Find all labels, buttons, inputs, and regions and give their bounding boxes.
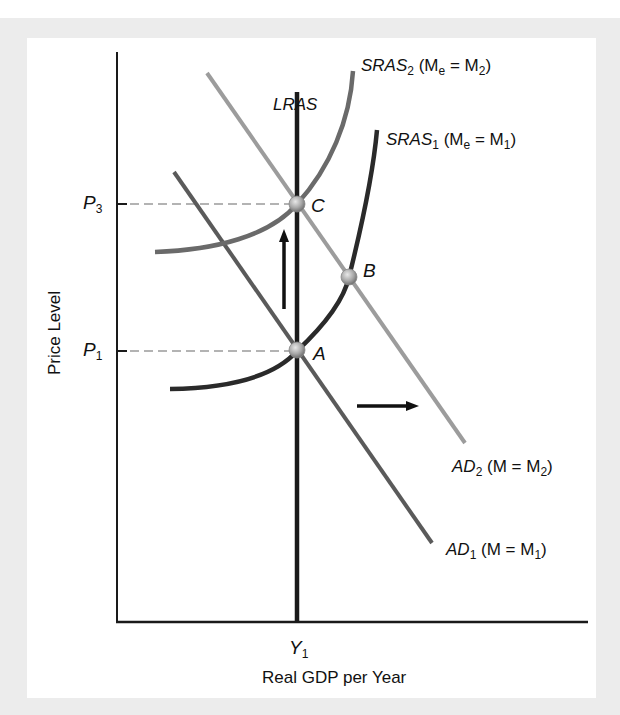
- sras2-curve: [155, 71, 353, 252]
- ad1-curve: [174, 172, 432, 543]
- point-c-label: C: [311, 196, 325, 215]
- sras2-label: SRAS2 (Me = M2): [361, 57, 491, 77]
- y1-tick-label: Y1: [289, 638, 308, 660]
- ad-shift-arrow: [357, 401, 419, 411]
- x-axis-title: Real GDP per Year: [262, 668, 406, 688]
- lras-label: LRAS: [273, 96, 317, 113]
- point-a-marker: [289, 342, 305, 358]
- sras1-label: SRAS1 (Me = M1): [386, 131, 516, 151]
- point-a-label: A: [313, 344, 326, 363]
- y-axis-title: Price Level: [45, 291, 65, 375]
- point-b-marker: [341, 269, 357, 285]
- ad1-label: AD1 (M = M1): [446, 541, 547, 561]
- ad2-label: AD2 (M = M2): [452, 458, 553, 478]
- ad2-curve: [207, 73, 465, 443]
- p1-tick-label: P1: [83, 340, 102, 362]
- point-c-marker: [289, 196, 305, 212]
- price-rise-arrow: [279, 229, 289, 309]
- point-b-label: B: [363, 261, 376, 280]
- p3-tick-label: P3: [83, 193, 102, 215]
